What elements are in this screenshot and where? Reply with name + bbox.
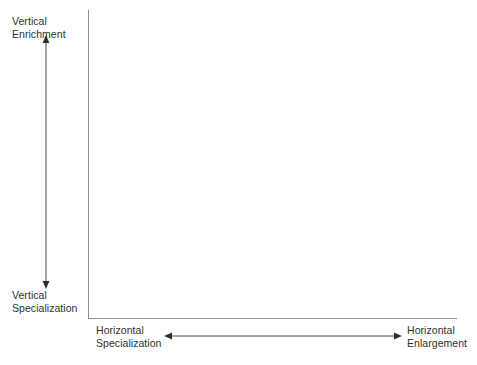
label-horizontal-specialization: Horizontal Specialization	[96, 324, 162, 350]
vertical-double-arrow-icon	[36, 33, 56, 291]
horizontal-double-arrow-icon	[162, 328, 404, 344]
horizontal-axis-line	[88, 318, 457, 319]
diagram-canvas: Vertical Enrichment Vertical Specializat…	[0, 0, 477, 365]
label-vertical-enrichment: Vertical Enrichment	[12, 15, 66, 41]
label-horizontal-enlargement: Horizontal Enlargement	[407, 324, 467, 350]
label-vertical-specialization: Vertical Specialization	[12, 289, 78, 315]
vertical-axis-line	[88, 10, 89, 319]
